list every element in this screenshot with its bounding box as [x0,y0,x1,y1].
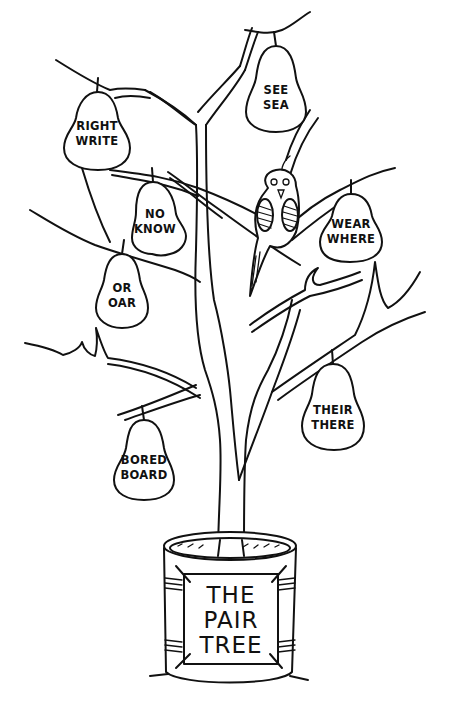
branch-right-write-2 [115,96,150,98]
pear-word-1: RIGHT [76,119,118,133]
pear-stem [274,32,276,46]
pear-right-write: RIGHT WRITE [64,78,130,170]
twig-see-sea-3 [245,32,258,70]
branch-right-write [56,60,145,90]
twig-see-sea [245,12,310,33]
pear-word-2: THERE [311,418,355,432]
sign-line-2: PAIR [204,607,259,633]
trunk-split-right [239,310,300,480]
pear-word-2: WHERE [327,232,375,246]
pear-stem [142,406,144,420]
sign-line-1: THE [206,582,256,608]
branch-mid-right [250,268,360,325]
sign-line-3: TREE [198,632,262,658]
branch-mid-right-2 [252,280,362,332]
trunk-split [206,125,239,480]
branch-top-left-2 [150,92,196,125]
tin-can-pot: THE PAIR TREE [150,532,308,683]
pear-see-sea: SEE SEA [246,32,306,132]
pear-stem [122,240,124,254]
tree [25,12,425,548]
ground-line-right [290,676,308,680]
pear-word-1: THEIR [313,403,353,417]
branch-lower-left [25,328,196,388]
ground-line-left [150,674,168,676]
pear-bored-board: BORED BOARD [114,406,174,500]
pear-word-1: SEE [264,83,289,97]
pear-word-2: KNOW [134,222,176,236]
pear-word-2: WRITE [75,134,118,148]
pear-stem [332,350,333,364]
trunk-right-edge [244,300,292,548]
pear-word-1: BORED [121,453,167,467]
quail-body [250,170,299,296]
pair-tree-illustration: RIGHT WRITE SEE SEA NO KNOW WEAR WHERE O… [0,0,455,714]
quail [250,156,299,296]
pear-stem [97,78,98,92]
pear-or-oar: OR OAR [96,240,148,328]
pear-stem [152,168,153,182]
branch-or-oar-2 [82,168,110,242]
pear-word-1: WEAR [331,217,371,231]
pear-word-1: OR [112,281,131,295]
pear-wear-where: WEAR WHERE [320,180,382,262]
pear-word-2: BOARD [120,468,167,482]
pear-word-2: SEA [263,98,289,112]
twig-see-sea-2 [240,28,252,66]
pear-word-1: NO [145,207,165,221]
pear-word-2: OAR [108,296,136,310]
